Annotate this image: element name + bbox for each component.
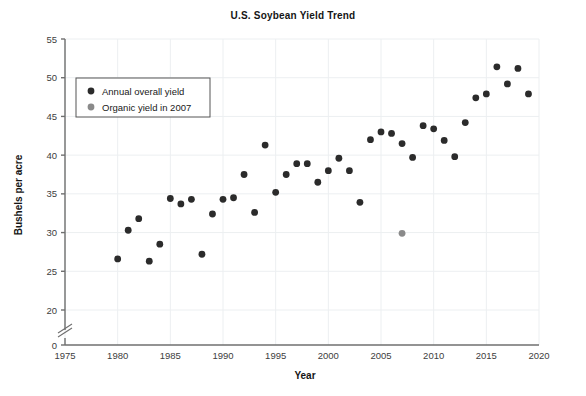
- y-axis-ticks: 02025303540455055: [46, 34, 65, 351]
- y-tick-label: 30: [46, 227, 57, 238]
- y-tick-label: 50: [46, 72, 57, 83]
- legend-marker-icon: [88, 88, 95, 95]
- x-tick-label: 1990: [212, 350, 233, 361]
- data-point[interactable]: [493, 63, 500, 70]
- data-point[interactable]: [515, 65, 522, 72]
- x-tick-label: 1995: [265, 350, 286, 361]
- data-point[interactable]: [135, 215, 142, 222]
- y-tick-label: 55: [46, 34, 57, 45]
- x-tick-label: 2010: [423, 350, 444, 361]
- data-point[interactable]: [504, 81, 511, 88]
- data-point[interactable]: [409, 154, 416, 161]
- data-point[interactable]: [167, 195, 174, 202]
- chart-figure: U.S. Soybean Yield Trend 020253035404550…: [0, 0, 586, 396]
- series-2: [399, 230, 406, 237]
- data-point[interactable]: [483, 91, 490, 98]
- data-point[interactable]: [335, 155, 342, 162]
- data-point[interactable]: [357, 199, 364, 206]
- x-tick-label: 1980: [107, 350, 128, 361]
- data-point[interactable]: [420, 122, 427, 129]
- data-point[interactable]: [146, 258, 153, 265]
- data-point[interactable]: [451, 153, 458, 160]
- x-tick-label: 2015: [476, 350, 497, 361]
- scatter-plot: 02025303540455055 1975198019851990199520…: [0, 0, 586, 396]
- y-tick-label: 25: [46, 266, 57, 277]
- data-point[interactable]: [293, 160, 300, 167]
- data-point[interactable]: [125, 227, 132, 234]
- data-point[interactable]: [209, 211, 216, 218]
- x-axis-title: Year: [294, 370, 315, 381]
- x-tick-label: 2020: [528, 350, 549, 361]
- data-point[interactable]: [156, 241, 163, 248]
- data-point[interactable]: [251, 209, 258, 216]
- legend-label[interactable]: Annual overall yield: [102, 86, 184, 97]
- data-point[interactable]: [220, 196, 227, 203]
- data-point[interactable]: [314, 179, 321, 186]
- data-point[interactable]: [177, 201, 184, 208]
- data-point[interactable]: [430, 125, 437, 132]
- y-tick-label: 35: [46, 188, 57, 199]
- data-point[interactable]: [188, 196, 195, 203]
- data-point[interactable]: [399, 230, 406, 237]
- x-tick-label: 1975: [54, 350, 75, 361]
- y-axis-title: Bushels per acre: [13, 154, 24, 235]
- data-point[interactable]: [262, 142, 269, 149]
- legend-label[interactable]: Organic yield in 2007: [102, 102, 191, 113]
- x-tick-label: 1985: [160, 350, 181, 361]
- data-point[interactable]: [378, 129, 385, 136]
- data-point[interactable]: [525, 91, 532, 98]
- data-point[interactable]: [399, 140, 406, 147]
- y-tick-label: 45: [46, 111, 57, 122]
- y-tick-label: 20: [46, 305, 57, 316]
- x-axis-ticks: 1975198019851990199520002005201020152020: [54, 350, 549, 361]
- legend-marker-icon: [88, 104, 95, 111]
- data-point[interactable]: [230, 194, 237, 201]
- data-point[interactable]: [367, 136, 374, 143]
- data-point[interactable]: [114, 256, 121, 263]
- data-point[interactable]: [472, 94, 479, 101]
- data-point[interactable]: [304, 160, 311, 167]
- data-point[interactable]: [462, 119, 469, 126]
- x-tick-label: 2005: [370, 350, 391, 361]
- y-tick-label: 0: [52, 340, 57, 351]
- data-point[interactable]: [283, 171, 290, 178]
- data-point[interactable]: [241, 171, 248, 178]
- chart-legend[interactable]: Annual overall yieldOrganic yield in 200…: [76, 78, 210, 117]
- data-point[interactable]: [388, 130, 395, 137]
- data-point[interactable]: [272, 189, 279, 196]
- y-tick-label: 40: [46, 150, 57, 161]
- data-point[interactable]: [346, 167, 353, 174]
- x-tick-label: 2000: [318, 350, 339, 361]
- data-point[interactable]: [441, 137, 448, 144]
- data-point[interactable]: [199, 251, 206, 258]
- data-point[interactable]: [325, 167, 332, 174]
